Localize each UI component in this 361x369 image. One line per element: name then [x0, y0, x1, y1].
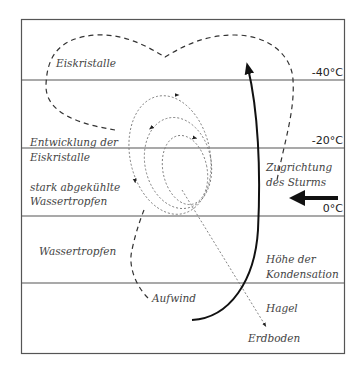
main-updraft-curve — [192, 68, 259, 320]
temp-minus20: -20°C — [312, 134, 343, 147]
label-erdboden: Erdboden — [247, 332, 300, 344]
label-wassertropfen: Wassertropfen — [39, 245, 117, 257]
hail-fall-path — [182, 190, 265, 325]
loop-arrow-icon — [191, 137, 195, 138]
label-entwicklung-2: Eiskristalle — [29, 151, 90, 163]
label-zugrichtung-2: des Sturms — [266, 176, 327, 188]
updraft-path — [131, 210, 148, 298]
label-hoehe-2: Kondensation — [265, 268, 339, 280]
label-entwicklung-1: Entwicklung der — [29, 136, 119, 148]
label-hagel: Hagel — [265, 302, 298, 314]
label-zugrichtung-1: Zugrichtung — [265, 161, 333, 173]
temp-zero: 0°C — [323, 202, 343, 215]
circulation-loop-inner — [156, 131, 214, 209]
label-eiskristalle: Eiskristalle — [55, 57, 116, 69]
temp-minus40: -40°C — [312, 66, 343, 79]
label-hoehe-1: Höhe der — [265, 253, 317, 265]
hail-diagram: -40°C -20°C 0°C Eiskristalle Entwicklung… — [0, 0, 361, 369]
circulation-loop-outer — [118, 88, 221, 222]
label-stark-1: stark abgekühlte — [30, 181, 120, 193]
label-stark-2: Wassertropfen — [30, 195, 108, 207]
label-aufwind: Aufwind — [151, 292, 196, 304]
